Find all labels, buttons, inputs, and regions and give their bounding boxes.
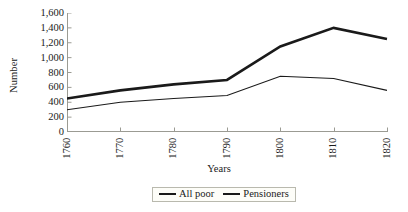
y-axis-tick-labels: 02004006008001,0001,2001,4001,600	[24, 13, 64, 132]
line-chart-figure: Number 02004006008001,0001,2001,4001,600…	[0, 0, 408, 212]
x-tick-label-text: 1770	[115, 138, 126, 159]
x-axis-title-label: Years	[207, 163, 230, 174]
x-tick-label-text: 1790	[222, 138, 233, 159]
y-tick-label: 1,000	[24, 52, 64, 63]
y-tick-label: 1,400	[24, 23, 64, 34]
x-tick-label: 1800	[265, 134, 295, 155]
axis-lines	[67, 13, 388, 132]
x-tick-label-text: 1810	[328, 138, 339, 159]
x-tick-label-text: 1800	[275, 138, 286, 159]
legend-label: All poor	[179, 189, 214, 200]
x-tick-label: 1780	[159, 134, 189, 155]
x-axis-title: Years	[0, 163, 408, 174]
x-tick-label-text: 1760	[62, 138, 73, 159]
plot-svg	[67, 13, 388, 132]
x-tick-label: 1810	[319, 134, 349, 155]
x-tick-label-text: 1780	[168, 138, 179, 159]
y-tick-label: 600	[24, 82, 64, 93]
y-axis-title: Number	[2, 40, 24, 110]
x-axis-ticks	[68, 128, 388, 132]
data-series-group	[67, 28, 387, 110]
plot-area	[67, 13, 388, 132]
chart-legend: All poorPensioners	[152, 187, 296, 202]
legend-entry: All poor	[159, 189, 214, 200]
x-tick-label: 1770	[105, 134, 135, 155]
x-axis-tick-labels: 1760177017801790180018101820	[67, 134, 388, 162]
series-line-all-poor	[67, 28, 387, 99]
legend-label: Pensioners	[243, 189, 289, 200]
legend-line-swatch-icon	[159, 193, 176, 196]
x-tick-label-text: 1820	[382, 138, 393, 159]
x-tick-label: 1790	[212, 134, 242, 155]
y-tick-label: 800	[24, 67, 64, 78]
y-tick-label: 200	[24, 112, 64, 123]
legend-entry: Pensioners	[223, 189, 289, 200]
y-axis-ticks	[68, 13, 72, 132]
y-axis-title-label: Number	[8, 57, 19, 92]
y-tick-label: 400	[24, 97, 64, 108]
legend-line-swatch-icon	[223, 193, 240, 194]
x-tick-label: 1760	[52, 134, 82, 155]
x-tick-label: 1820	[372, 134, 402, 155]
y-tick-label: 1,600	[24, 8, 64, 19]
y-tick-label: 1,200	[24, 38, 64, 49]
